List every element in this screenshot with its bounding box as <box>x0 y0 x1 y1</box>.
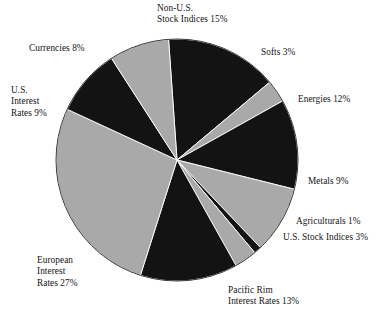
slice-label-non-us-stock-indices: Non-U.S. Stock Indices 15% <box>157 3 228 26</box>
slice-label-line: Pacific Rim <box>228 285 299 296</box>
slice-label-line: Non-U.S. <box>157 3 228 14</box>
slice-label-european-interest-rates: European Interest Rates 27% <box>37 255 77 289</box>
slice-label-line: Rates 27% <box>37 278 77 289</box>
slice-label-line: Stock Indices 15% <box>157 14 228 25</box>
slice-label-line: Interest Rates 13% <box>228 296 299 307</box>
slice-label-line: Metals 9% <box>308 176 348 187</box>
slice-label-agriculturals: Agriculturals 1% <box>296 216 361 227</box>
slice-label-line: Agriculturals 1% <box>296 216 361 227</box>
slice-label-us-stock-indices: U.S. Stock Indices 3% <box>283 232 368 243</box>
slice-label-line: European <box>37 255 77 266</box>
slice-label-line: Interest <box>37 266 77 277</box>
slice-label-line: Energies 12% <box>298 94 350 105</box>
slice-label-line: U.S. <box>11 85 47 96</box>
slice-label-energies: Energies 12% <box>298 94 350 105</box>
slice-label-us-interest-rates: U.S. Interest Rates 9% <box>11 85 47 119</box>
slice-label-line: Rates 9% <box>11 108 47 119</box>
pie-chart-figure: Non-U.S. Stock Indices 15% Softs 3% Ener… <box>0 0 389 320</box>
slice-label-line: Interest <box>11 96 47 107</box>
slice-label-line: Softs 3% <box>261 47 295 58</box>
slice-label-softs: Softs 3% <box>261 47 295 58</box>
slice-label-line: Currencies 8% <box>29 43 85 54</box>
slice-label-metals: Metals 9% <box>308 176 348 187</box>
slice-label-currencies: Currencies 8% <box>29 43 85 54</box>
slice-label-pacific-rim-interest-rates: Pacific Rim Interest Rates 13% <box>228 285 299 308</box>
slice-label-line: U.S. Stock Indices 3% <box>283 232 368 243</box>
